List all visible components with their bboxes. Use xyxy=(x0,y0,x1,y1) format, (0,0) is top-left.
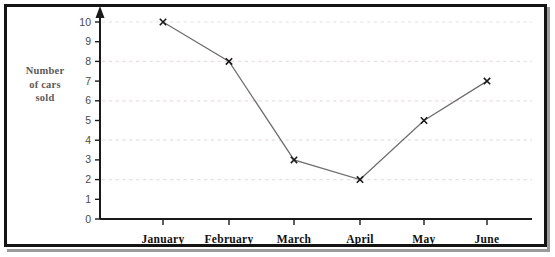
y-axis-tick-label: 10 xyxy=(69,17,91,27)
x-axis-tick-label: June xyxy=(442,233,532,245)
data-point-markers xyxy=(160,19,490,183)
y-axis-tick-label: 8 xyxy=(69,56,91,66)
y-axis-tick-label: 3 xyxy=(69,154,91,164)
y-axis-tick-label: 5 xyxy=(69,115,91,125)
y-axis-tick-label: 2 xyxy=(69,174,91,184)
y-axis-tick-label: 7 xyxy=(69,76,91,86)
axes xyxy=(96,6,533,219)
chart-page: Number of cars sold 012345678910 January… xyxy=(0,0,555,257)
gridlines xyxy=(102,22,532,180)
y-axis-tick-label: 4 xyxy=(69,135,91,145)
y-axis-tick-label: 6 xyxy=(69,95,91,105)
data-point-marker xyxy=(484,78,490,84)
y-axis-tick-label: 9 xyxy=(69,36,91,46)
y-axis-tick-label: 1 xyxy=(69,194,91,204)
data-point-marker xyxy=(421,117,427,123)
y-axis-tick-label: 0 xyxy=(69,214,91,224)
